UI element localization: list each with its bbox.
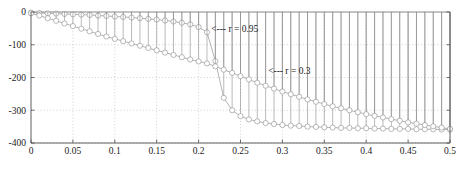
data-point-marker <box>37 13 42 18</box>
data-point-marker <box>330 125 335 130</box>
data-point-marker <box>406 126 411 131</box>
data-point-marker <box>263 120 268 125</box>
data-point-marker <box>372 126 377 131</box>
data-point-marker <box>280 122 285 127</box>
data-point-marker <box>322 125 327 130</box>
data-point-marker <box>171 52 176 57</box>
data-point-marker <box>347 125 352 130</box>
data-point-marker <box>330 104 335 109</box>
data-point-marker <box>422 122 427 127</box>
data-point-marker <box>112 36 117 41</box>
data-point-marker <box>280 89 285 94</box>
data-point-marker <box>70 23 75 28</box>
x-tick-label: 0.5 <box>444 146 456 156</box>
data-point-marker <box>439 125 444 130</box>
data-point-marker <box>230 70 235 75</box>
data-point-marker <box>154 48 159 53</box>
data-point-marker <box>271 121 276 126</box>
data-point-marker <box>230 108 235 113</box>
data-point-marker <box>221 95 226 100</box>
y-tick-label: 0 <box>21 7 26 17</box>
x-tick-label: 0.25 <box>232 146 249 156</box>
data-point-marker <box>104 34 109 39</box>
stem-plot-figure: 00.050.10.150.20.250.30.350.40.450.50-10… <box>0 0 475 169</box>
data-point-marker <box>213 64 218 69</box>
data-point-marker <box>221 67 226 72</box>
data-point-marker <box>255 119 260 124</box>
x-tick-label: 0.4 <box>360 146 372 156</box>
data-point-marker <box>414 127 419 132</box>
x-tick-label: 0.35 <box>316 146 333 156</box>
plot-canvas: 00.050.10.150.20.250.30.350.40.450.50-10… <box>0 0 475 169</box>
x-tick-label: 0.3 <box>276 146 288 156</box>
data-point-marker <box>87 29 92 34</box>
data-point-marker <box>355 110 360 115</box>
data-point-marker <box>389 126 394 131</box>
data-point-marker <box>129 41 134 46</box>
data-point-marker <box>271 86 276 91</box>
data-point-marker <box>45 16 50 21</box>
x-tick-label: 0.05 <box>65 146 82 156</box>
data-point-marker <box>246 117 251 122</box>
data-point-marker <box>95 31 100 36</box>
x-tick-label: 0.45 <box>400 146 417 156</box>
data-point-marker <box>414 121 419 126</box>
annotation-label: <--- r = 0.95 <box>211 24 258 34</box>
data-point-marker <box>372 113 377 118</box>
data-point-marker <box>313 99 318 104</box>
data-point-marker <box>380 126 385 131</box>
y-tick-label: -300 <box>9 106 27 116</box>
data-point-marker <box>397 118 402 123</box>
data-point-marker <box>380 115 385 120</box>
x-tick-label: 0.15 <box>148 146 165 156</box>
data-point-marker <box>188 57 193 62</box>
data-point-marker <box>255 80 260 85</box>
y-tick-label: -400 <box>9 138 27 148</box>
data-point-marker <box>297 94 302 99</box>
data-point-marker <box>238 114 243 119</box>
data-point-marker <box>431 124 436 129</box>
data-point-marker <box>355 126 360 131</box>
data-point-marker <box>406 120 411 125</box>
data-point-marker <box>162 50 167 55</box>
data-point-marker <box>204 61 209 66</box>
y-tick-label: -100 <box>9 40 27 50</box>
data-point-marker <box>305 124 310 129</box>
data-point-marker <box>313 124 318 129</box>
data-point-marker <box>263 83 268 88</box>
x-tick-label: 0 <box>29 146 34 156</box>
x-tick-label: 0.2 <box>193 146 205 156</box>
x-tick-label: 0.1 <box>109 146 121 156</box>
data-point-marker <box>364 112 369 117</box>
data-point-marker <box>54 18 59 23</box>
data-point-marker <box>246 77 251 82</box>
data-point-marker <box>179 55 184 60</box>
data-point-marker <box>288 92 293 97</box>
data-point-marker <box>389 116 394 121</box>
data-point-marker <box>397 126 402 131</box>
data-point-marker <box>297 123 302 128</box>
data-point-marker <box>364 126 369 131</box>
data-point-marker <box>347 108 352 113</box>
annotation-label: <--- r = 0.3 <box>268 66 311 76</box>
data-point-marker <box>322 101 327 106</box>
data-point-marker <box>238 74 243 79</box>
data-point-marker <box>338 106 343 111</box>
data-point-marker <box>137 43 142 48</box>
data-point-marker <box>146 45 151 50</box>
data-point-marker <box>62 21 67 26</box>
data-point-marker <box>121 39 126 44</box>
y-tick-label: -200 <box>9 73 27 83</box>
data-point-marker <box>305 97 310 102</box>
data-point-marker <box>288 123 293 128</box>
data-point-marker <box>338 125 343 130</box>
data-point-marker <box>196 59 201 64</box>
data-point-marker <box>79 26 84 31</box>
